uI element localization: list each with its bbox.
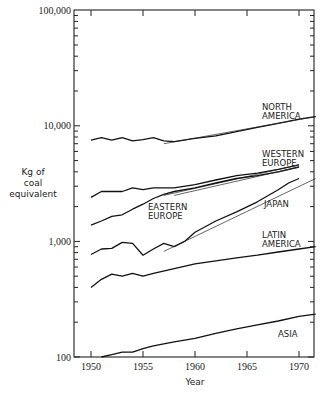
series-label: EUROPE xyxy=(262,158,297,168)
line-chart: 1001,00010,000100,0001950195519601965197… xyxy=(0,0,326,395)
x-tick-label: 1955 xyxy=(133,361,153,372)
trend-line xyxy=(174,167,299,195)
series-line-western-europe xyxy=(91,165,299,198)
plot-frame xyxy=(74,10,314,357)
x-tick-label: 1970 xyxy=(289,361,309,372)
y-axis-title-line: equivalent xyxy=(9,189,57,199)
y-axis-title-line: coal xyxy=(24,178,42,188)
x-tick-label: 1950 xyxy=(81,361,101,372)
series-label: ASIA xyxy=(278,329,298,339)
y-tick-label: 100 xyxy=(56,352,71,363)
axis-ticks: 1001,00010,000100,0001950195519601965197… xyxy=(39,5,315,372)
series-label: AMERICA xyxy=(262,239,301,249)
y-tick-label: 10,000 xyxy=(44,120,72,131)
series-labels: NORTHAMERICAWESTERNEUROPEEASTERNEUROPEJA… xyxy=(148,102,304,339)
series-label: EUROPE xyxy=(148,211,183,221)
y-axis-title: Kg ofcoalequivalent xyxy=(9,167,57,199)
series-label: JAPAN xyxy=(263,199,289,209)
y-tick-label: 1,000 xyxy=(49,236,72,247)
series-line-latin-america xyxy=(91,247,316,288)
x-tick-label: 1965 xyxy=(237,361,257,372)
x-axis-title: Year xyxy=(184,377,204,387)
y-axis-title-line: Kg of xyxy=(21,167,45,177)
x-tick-label: 1960 xyxy=(185,361,205,372)
y-tick-label: 100,000 xyxy=(39,5,72,16)
plot-axes xyxy=(74,10,314,357)
series-label: AMERICA xyxy=(262,111,301,121)
